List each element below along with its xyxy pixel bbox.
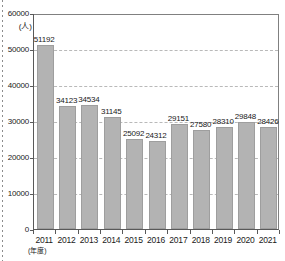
bar — [260, 127, 277, 229]
gridline — [34, 50, 278, 51]
bar — [81, 105, 98, 229]
y-tick-label: 40000 — [0, 82, 29, 90]
y-tick-label: 60000 — [0, 10, 29, 18]
x-axis-unit-label: (年度) — [28, 247, 47, 254]
y-tick-mark — [30, 122, 34, 123]
x-tick-mark — [55, 230, 56, 234]
bar — [149, 141, 166, 229]
bar-value-label: 28426 — [254, 118, 282, 126]
bar — [37, 45, 54, 229]
bar-chart: (人) (年度) 6000050000400003000020000100000… — [0, 0, 285, 261]
y-tick-mark — [30, 194, 34, 195]
y-tick-label: 10000 — [0, 190, 29, 198]
y-tick-label: 20000 — [0, 154, 29, 162]
bar — [104, 117, 121, 229]
x-tick-mark — [167, 230, 168, 234]
x-tick-label: 2021 — [255, 236, 281, 245]
bar-value-label: 51192 — [30, 36, 58, 44]
x-tick-mark — [212, 230, 213, 234]
y-tick-mark — [30, 50, 34, 51]
bar — [59, 106, 76, 229]
y-axis-unit-label: (人) — [9, 23, 32, 31]
bar — [216, 127, 233, 229]
bar — [171, 124, 188, 229]
bar-value-label: 31145 — [97, 108, 125, 116]
x-tick-mark — [234, 230, 235, 234]
y-tick-label: 30000 — [0, 118, 29, 126]
x-tick-mark — [122, 230, 123, 234]
x-tick-mark — [190, 230, 191, 234]
x-tick-mark — [100, 230, 101, 234]
y-tick-label: 50000 — [0, 46, 29, 54]
bar-value-label: 24312 — [142, 132, 170, 140]
bar-value-label: 34534 — [75, 96, 103, 104]
y-tick-mark — [30, 14, 34, 15]
bar — [193, 130, 210, 229]
x-tick-mark — [257, 230, 258, 234]
y-tick-label: 0 — [0, 226, 29, 234]
x-tick-mark — [33, 230, 34, 234]
bar — [238, 122, 255, 229]
x-tick-mark — [279, 230, 280, 234]
gridline — [34, 86, 278, 87]
x-tick-mark — [145, 230, 146, 234]
x-tick-mark — [78, 230, 79, 234]
bar — [126, 139, 143, 229]
y-tick-mark — [30, 86, 34, 87]
plot-area — [33, 14, 279, 230]
y-tick-mark — [30, 158, 34, 159]
